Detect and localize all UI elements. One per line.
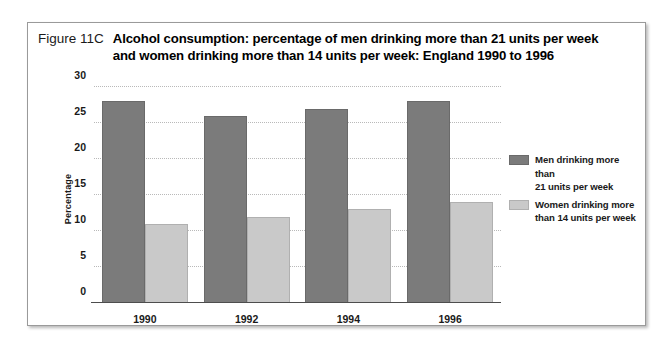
y-axis-tick-label: 25: [74, 105, 86, 117]
x-axis-line: [91, 302, 501, 303]
legend-entry-men[interactable]: Men drinking more than21 units per week: [509, 153, 639, 194]
bar-women-1994[interactable]: [348, 209, 391, 303]
y-axis-tick-label: 30: [74, 69, 86, 81]
legend-swatch-men-icon: [509, 155, 529, 165]
legend-label-line-1: Men drinking more than: [535, 154, 619, 179]
bar-men-1990[interactable]: [102, 101, 145, 303]
bar-women-1996[interactable]: [450, 202, 493, 303]
legend-swatch-women-icon: [509, 200, 529, 210]
chart-legend: Men drinking more than21 units per weekW…: [509, 153, 639, 229]
y-axis-title: Percentage: [63, 174, 73, 225]
legend-label-line-2: 21 units per week: [535, 181, 613, 192]
legend-label-line-2: than 14 units per week: [535, 212, 636, 223]
chart-canvas: Percentage 051015202530 1990199219941996…: [28, 23, 645, 325]
x-axis-tick-label-1996: 1996: [407, 313, 493, 325]
plot-area: 051015202530 1990199219941996: [94, 87, 501, 303]
bar-women-1992[interactable]: [247, 217, 290, 303]
bar-group-1990: 1990: [102, 87, 188, 303]
bar-group-1996: 1996: [407, 87, 493, 303]
bar-men-1992[interactable]: [204, 116, 247, 303]
y-axis-tick-label: 10: [74, 213, 86, 225]
legend-label-line-1: Women drinking more: [535, 199, 634, 210]
figure-panel: Figure 11C Alcohol consumption: percenta…: [27, 22, 646, 326]
legend-label-women: Women drinking morethan 14 units per wee…: [535, 198, 636, 225]
y-axis-tick-label: 20: [74, 141, 86, 153]
bar-group-1992: 1992: [204, 87, 290, 303]
y-axis-tick-label: 5: [80, 249, 86, 261]
x-axis-tick-label-1990: 1990: [102, 313, 188, 325]
x-axis-tick-label-1992: 1992: [204, 313, 290, 325]
legend-entry-women[interactable]: Women drinking morethan 14 units per wee…: [509, 198, 639, 225]
y-axis-tick-label: 0: [80, 285, 86, 297]
bar-men-1996[interactable]: [407, 101, 450, 303]
legend-label-men: Men drinking more than21 units per week: [535, 153, 639, 194]
bar-women-1990[interactable]: [145, 224, 188, 303]
x-axis-tick-label-1994: 1994: [305, 313, 391, 325]
bar-group-1994: 1994: [305, 87, 391, 303]
y-axis-tick-label: 15: [74, 177, 86, 189]
bar-men-1994[interactable]: [305, 109, 348, 303]
